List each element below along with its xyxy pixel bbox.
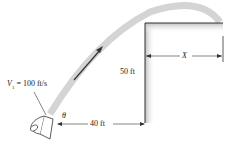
roof-shading [145,23,223,33]
building-wall [145,23,223,123]
nozzle-icon [29,116,53,139]
velocity-leader-line [34,92,46,115]
wall-shading [145,23,155,123]
water-stream [50,5,220,114]
unknown-distance-label: X [182,52,187,60]
projectile-diagram [0,0,230,149]
velocity-label: V1 = 100 ft/s [7,80,47,90]
horizontal-distance-label: 40 ft [90,120,105,128]
flow-direction-arrow [74,49,101,80]
height-label: 50 ft [120,68,135,76]
velocity-value: = 100 ft/s [14,79,47,88]
angle-label: θ [62,112,66,120]
